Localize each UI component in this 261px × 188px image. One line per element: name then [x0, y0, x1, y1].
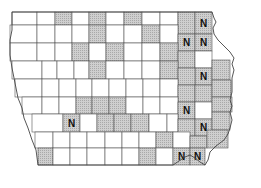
iowa-county-map: NNNNNNNNN	[0, 0, 261, 188]
county	[37, 43, 55, 61]
county-shaded	[212, 112, 230, 130]
county	[15, 79, 42, 97]
county	[37, 12, 55, 25]
county-shaded	[76, 97, 92, 114]
county	[173, 132, 190, 148]
county	[10, 25, 37, 43]
county	[105, 132, 122, 148]
county	[74, 61, 89, 79]
county	[160, 25, 178, 43]
county	[76, 79, 92, 97]
county-marker-label: N	[178, 151, 185, 162]
county	[156, 148, 173, 165]
county-marker-label: N	[200, 18, 207, 29]
county	[142, 61, 160, 79]
county	[80, 114, 97, 132]
county-marker-label: N	[183, 37, 190, 48]
county	[42, 61, 57, 79]
county-marker-label: N	[200, 122, 207, 133]
county	[59, 97, 76, 114]
county	[53, 132, 70, 148]
county-shaded	[178, 12, 195, 34]
county	[55, 25, 72, 43]
county-shaded	[178, 68, 195, 85]
county	[124, 61, 142, 79]
county	[42, 79, 59, 97]
county	[92, 79, 109, 97]
county	[126, 97, 143, 114]
county	[32, 114, 63, 132]
county	[59, 79, 76, 97]
county	[72, 12, 89, 25]
county-shaded	[178, 85, 195, 102]
county	[55, 43, 72, 61]
county-marker-label: N	[200, 37, 207, 48]
county	[143, 97, 160, 114]
county-shaded	[139, 148, 156, 165]
county	[87, 132, 105, 148]
county	[195, 102, 212, 119]
county-shaded	[160, 61, 178, 79]
county	[167, 114, 178, 132]
county-marker-label: N	[68, 118, 75, 129]
county-shaded	[124, 12, 142, 25]
county	[122, 148, 139, 165]
county-shaded	[109, 97, 126, 114]
county	[160, 12, 178, 25]
county	[160, 97, 178, 114]
county-shaded	[160, 43, 178, 61]
county	[37, 25, 55, 43]
county-shaded	[131, 114, 149, 132]
county-shaded	[156, 132, 173, 148]
county	[42, 97, 59, 114]
county	[22, 97, 42, 114]
county-shaded	[212, 80, 231, 97]
county	[35, 132, 53, 148]
county	[143, 79, 160, 97]
county	[70, 132, 87, 148]
county-shaded	[212, 60, 230, 80]
county	[106, 25, 124, 43]
county	[12, 61, 42, 79]
county-shaded	[114, 114, 131, 132]
county-shaded	[106, 43, 124, 61]
county	[109, 79, 126, 97]
county-shaded	[195, 85, 212, 102]
county	[126, 79, 143, 97]
county	[10, 43, 37, 61]
county-shaded	[97, 114, 114, 132]
county-layer	[10, 12, 232, 165]
county-shaded	[142, 25, 160, 43]
county	[87, 148, 105, 165]
county	[142, 43, 160, 61]
county-marker-label: N	[183, 105, 190, 116]
county-shaded	[178, 51, 195, 68]
county-shaded	[89, 61, 106, 79]
county	[70, 148, 87, 165]
county	[12, 12, 37, 25]
county-shaded	[92, 97, 109, 114]
county	[89, 43, 106, 61]
county	[106, 12, 124, 25]
county-shaded	[89, 25, 106, 43]
county	[195, 51, 212, 68]
county	[160, 79, 178, 97]
county	[124, 25, 142, 43]
county	[124, 43, 142, 61]
county	[106, 61, 124, 79]
county	[53, 148, 70, 165]
county-marker-label: N	[200, 71, 207, 82]
county-shaded	[55, 12, 72, 25]
county	[57, 61, 74, 79]
county-shaded	[72, 43, 89, 61]
county-shaded	[89, 12, 106, 25]
county-shaded	[190, 136, 207, 148]
county	[149, 114, 167, 132]
county	[142, 12, 160, 25]
county	[122, 132, 139, 148]
county	[105, 148, 122, 165]
county-shaded	[212, 97, 232, 112]
county	[139, 132, 156, 148]
county-shaded	[38, 148, 53, 165]
county	[72, 25, 89, 43]
